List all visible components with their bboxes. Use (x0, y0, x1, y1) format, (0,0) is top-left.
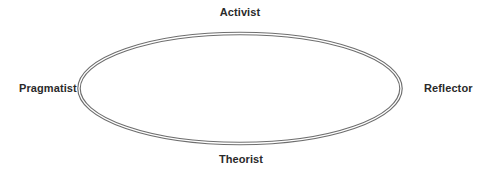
learning-styles-cycle-diagram: Activist Reflector Theorist Pragmatist (0, 0, 481, 170)
label-reflector: Reflector (424, 82, 473, 94)
ellipse-outer-stroke (79, 34, 401, 144)
label-pragmatist: Pragmatist (19, 82, 77, 94)
label-activist: Activist (220, 6, 261, 18)
label-theorist: Theorist (219, 153, 263, 165)
